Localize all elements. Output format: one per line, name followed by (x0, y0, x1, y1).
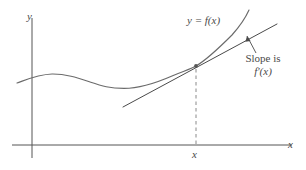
x-axis-label: x (288, 138, 293, 151)
slope-annotation-line1: Slope is (245, 52, 280, 64)
y-axis-label: y (27, 10, 32, 23)
slope-annotation: Slope is f′(x) (232, 52, 294, 77)
tangency-point-marker (194, 64, 198, 68)
derivative-tangent-figure: y x x y = f(x) Slope is f′(x) (0, 0, 306, 170)
slope-annotation-derivative: f′(x) (232, 65, 294, 78)
curve-equation-label: y = f(x) (187, 14, 220, 27)
figure-canvas (0, 0, 306, 170)
x-tick-label: x (192, 148, 197, 161)
